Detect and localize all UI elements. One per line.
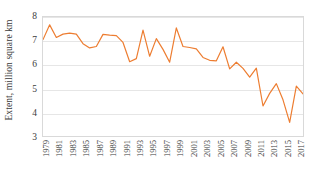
x-tick-label: 1997 (163, 140, 172, 157)
x-tick-label: 2013 (270, 140, 279, 157)
x-tick-label: 1995 (149, 140, 158, 157)
x-tick-label: 2005 (217, 140, 226, 157)
x-tick-label: 1999 (176, 140, 185, 157)
x-tick-label: 2003 (203, 140, 212, 157)
y-tick-label: 8 (32, 11, 37, 21)
x-tick-label: 2015 (284, 140, 293, 157)
y-tick-label: 7 (32, 35, 37, 45)
x-tick-label: 1981 (55, 140, 64, 157)
x-tick-label: 1991 (123, 140, 132, 157)
y-tick-label: 4 (32, 108, 37, 118)
x-tick-label: 2001 (190, 140, 199, 157)
y-tick-label: 3 (32, 132, 37, 142)
x-tick-label: 2011 (257, 140, 266, 157)
y-axis-tick-labels: 876543 (18, 10, 40, 138)
x-tick-label: 2007 (230, 140, 239, 157)
plot-area (42, 16, 304, 137)
x-tick-label: 2009 (244, 140, 253, 157)
series-line-extent (43, 17, 303, 136)
x-tick-label: 1979 (42, 140, 51, 157)
x-tick-label: 1993 (136, 140, 145, 157)
y-axis-title-label: Extent, million square km (4, 19, 14, 120)
x-tick-label: 1983 (69, 140, 78, 157)
sea-ice-extent-line-chart: Extent, million square km 876543 1979198… (0, 0, 309, 175)
y-axis-title: Extent, million square km (0, 0, 18, 140)
y-tick-label: 5 (32, 84, 37, 94)
x-tick-label: 1987 (96, 140, 105, 157)
y-tick-label: 6 (32, 59, 37, 69)
x-tick-label: 1989 (109, 140, 118, 157)
series-polyline (43, 25, 303, 123)
x-tick-label: 2017 (297, 140, 306, 157)
x-tick-label: 1985 (82, 140, 91, 157)
x-axis-tick-labels: 1979198119831985198719891991199319951997… (42, 138, 304, 175)
